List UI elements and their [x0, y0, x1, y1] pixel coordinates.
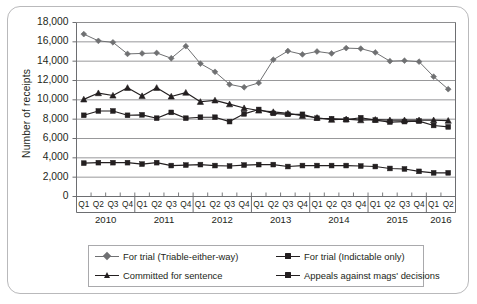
y-tick-label: 0: [21, 190, 69, 201]
legend-item[interactable]: Appeals against mags' decisions: [276, 271, 431, 281]
x-tick-year-label: 2016: [406, 214, 476, 225]
series-line-3: [81, 160, 450, 175]
legend-item[interactable]: For trial (Indictable only): [276, 252, 431, 262]
y-tick-label: 18,000: [21, 16, 69, 27]
y-tick-label: 14,000: [21, 55, 69, 66]
legend-item[interactable]: Committed for sentence: [95, 271, 276, 281]
legend-marker-square-icon: [276, 252, 300, 262]
plot-area: Number of receipts 18,00016,00014,00012,…: [0, 0, 477, 240]
axis-lines: [77, 23, 456, 213]
legend-marker-diamond-icon: [95, 252, 119, 262]
chart-legend: For trial (Triable-either-way)For trial …: [88, 245, 424, 287]
series-line-1: [81, 107, 450, 129]
data-series-layer: [81, 31, 452, 175]
legend-marker-triangle-icon: [95, 271, 119, 281]
legend-item-label: Committed for sentence: [123, 271, 223, 280]
legend-item[interactable]: For trial (Triable-either-way): [95, 252, 276, 262]
series-line-0: [81, 31, 451, 92]
y-tick-label: 10,000: [21, 93, 69, 104]
series-line-2: [81, 85, 452, 124]
y-tick-label: 12,000: [21, 74, 69, 85]
x-axis-ticks: [77, 193, 456, 197]
legend-item-label: For trial (Triable-either-way): [123, 252, 238, 261]
y-tick-label: 2,000: [21, 171, 69, 182]
legend-marker-square-icon: [276, 271, 300, 281]
y-tick-label: 4,000: [21, 151, 69, 162]
y-tick-label: 6,000: [21, 132, 69, 143]
gridlines: [77, 23, 456, 197]
chart-figure: Number of receipts 18,00016,00014,00012,…: [0, 0, 477, 304]
y-tick-label: 16,000: [21, 35, 69, 46]
y-tick-label: 8,000: [21, 113, 69, 124]
y-axis-ticks: [73, 23, 77, 197]
legend-item-label: Appeals against mags' decisions: [304, 271, 440, 280]
legend-item-label: For trial (Indictable only): [304, 252, 405, 261]
x-tick-quarter-label: Q2: [436, 199, 460, 209]
